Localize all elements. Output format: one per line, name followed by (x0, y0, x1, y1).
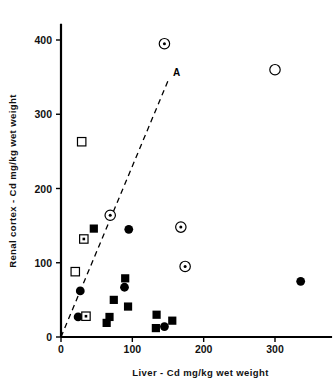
series-open-square (71, 138, 86, 276)
point-filled-circle-0 (124, 225, 133, 234)
scatter-plot-figure: 01002003000100200300400Liver - Cd mg/kg … (0, 0, 334, 391)
x-axis-label: Liver - Cd mg/kg wet weight (132, 367, 269, 378)
point-filled-square-3 (124, 302, 132, 310)
point-filled-square-1 (121, 274, 129, 282)
point-open-circle-0 (270, 65, 280, 75)
point-filled-circle-4 (160, 322, 169, 331)
point-filled-circle-2 (76, 287, 85, 296)
point-open-square-dot-1-inner-dot (85, 315, 88, 318)
y-tick-label-100: 100 (34, 257, 52, 269)
point-filled-square-7 (152, 324, 160, 332)
point-open-square-0 (77, 138, 85, 146)
x-tick-label-300: 300 (266, 343, 284, 355)
point-open-square-dot-0-inner-dot (83, 238, 86, 241)
series-filled-square (90, 224, 177, 332)
x-tick-label-0: 0 (58, 343, 64, 355)
point-open-circle-dot-1-inner-dot (109, 214, 112, 217)
point-filled-circle-1 (120, 283, 129, 292)
point-open-square-1 (71, 267, 79, 275)
series-open-square-dot (80, 235, 91, 321)
y-tick-label-200: 200 (34, 183, 52, 195)
point-filled-square-2 (110, 296, 118, 304)
y-tick-label-300: 300 (34, 108, 52, 120)
point-open-circle-dot-0-inner-dot (163, 42, 166, 45)
y-tick-label-400: 400 (34, 34, 52, 46)
point-filled-square-5 (103, 319, 111, 327)
point-open-circle-dot-2-inner-dot (179, 226, 182, 229)
point-filled-square-8 (168, 317, 176, 325)
series-open-circle (270, 65, 280, 75)
point-filled-square-6 (152, 311, 160, 319)
point-filled-square-0 (90, 224, 98, 232)
x-tick-label-100: 100 (124, 343, 142, 355)
plot-canvas: 01002003000100200300400Liver - Cd mg/kg … (0, 0, 334, 391)
y-axis-label: Renal cortex - Cd mg/kg wet weight (7, 94, 18, 268)
annotation-a: A (173, 67, 180, 78)
x-tick-label-200: 200 (195, 343, 213, 355)
point-filled-circle-5 (296, 277, 305, 286)
y-tick-label-0: 0 (46, 331, 52, 343)
point-open-circle-dot-3-inner-dot (184, 265, 187, 268)
